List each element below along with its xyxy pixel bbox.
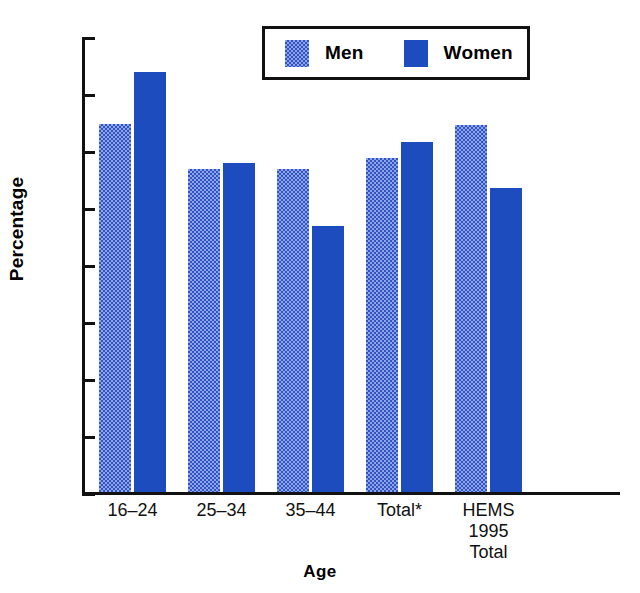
bar-women-0 [134, 72, 166, 494]
legend-items: MenWomen [265, 29, 527, 77]
y-tick-mark [82, 322, 95, 325]
legend-item-women: Women [404, 40, 513, 67]
y-tick-mark [82, 37, 95, 40]
legend-label: Men [325, 42, 364, 64]
y-tick-mark [82, 208, 95, 211]
bar-women-4 [490, 188, 522, 494]
bar-men-0 [99, 124, 131, 495]
bar-men-4 [455, 125, 487, 494]
y-tick-mark [82, 379, 95, 382]
bar-women-1 [223, 163, 255, 494]
y-tick-mark [82, 436, 95, 439]
legend-label: Women [444, 42, 513, 64]
y-tick-mark [82, 94, 95, 97]
y-axis-title: Percentage [6, 169, 28, 289]
y-tick-mark [82, 265, 95, 268]
x-axis-line [82, 492, 620, 495]
x-axis-title: Age [0, 562, 640, 582]
y-tick-mark [82, 151, 95, 154]
bar-chart: 01020304050607080 Percentage 16–2425–343… [0, 0, 640, 593]
bar-women-2 [312, 226, 344, 494]
bar-men-1 [188, 169, 220, 494]
legend-swatch-men [285, 40, 309, 67]
bar-men-2 [277, 169, 309, 494]
bar-women-3 [401, 142, 433, 494]
legend-item-men: Men [285, 40, 364, 67]
legend-swatch-women [404, 40, 428, 67]
bar-men-3 [366, 158, 398, 494]
x-category-label: HEMS 1995 Total [429, 500, 549, 563]
legend: MenWomen [262, 26, 530, 80]
